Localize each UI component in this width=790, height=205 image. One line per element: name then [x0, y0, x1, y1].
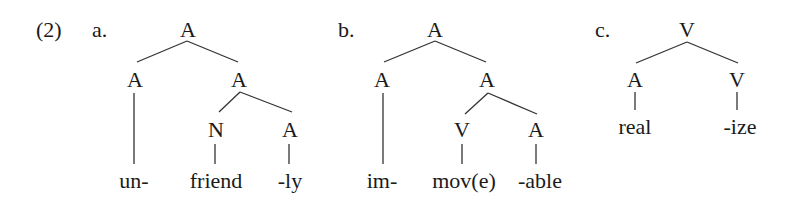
tree-c-leaf-ize: -ize [724, 116, 757, 138]
tree-b-right-node: A [479, 69, 495, 91]
tree-a-n-node: N [208, 119, 224, 141]
tree-a-right-node: A [231, 69, 247, 91]
example-number: (2) [36, 19, 62, 41]
tree-c-root-node: V [679, 19, 695, 41]
tree-b-root-node: A [427, 19, 443, 41]
tree-a-a-node: A [282, 119, 298, 141]
tree-b-v-node: V [454, 119, 470, 141]
tree-b-a-node: A [528, 119, 544, 141]
tree-b-leaf-able: -able [518, 170, 562, 192]
tree-b-leaf-im: im- [367, 170, 398, 192]
tree-b-leaf-move: mov(e) [432, 170, 496, 192]
tree-a-label: a. [92, 19, 107, 41]
tree-b-left-node: A [374, 69, 390, 91]
tree-a-root-node: A [180, 19, 196, 41]
tree-a-leaf-friend: friend [190, 170, 243, 192]
tree-c-left-node: A [627, 69, 643, 91]
tree-c-label: c. [595, 19, 610, 41]
tree-c-right-node: V [729, 69, 745, 91]
morphology-tree-figure: (2) a. A A A N A un- friend -ly b. A A A… [0, 0, 790, 205]
tree-a-left-node: A [127, 69, 143, 91]
tree-c-leaf-real: real [619, 116, 652, 138]
tree-a-leaf-un: un- [119, 170, 148, 192]
tree-a-leaf-ly: -ly [278, 170, 302, 192]
tree-b-label: b. [338, 19, 355, 41]
